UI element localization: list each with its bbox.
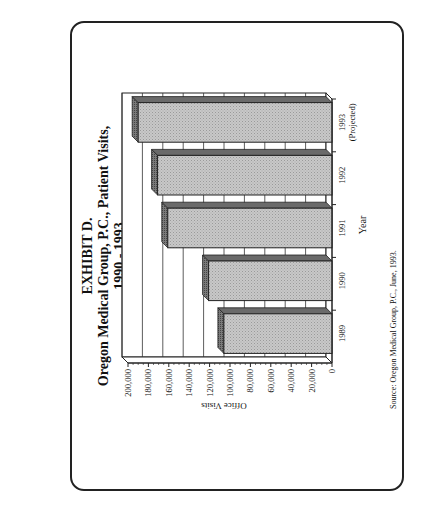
bar-1989	[224, 314, 332, 354]
bar-side-face	[218, 308, 332, 314]
bar-top-face	[218, 308, 224, 354]
side-wall	[122, 357, 332, 363]
bar-1991	[168, 208, 332, 248]
source-note: Source: Oregon Medical Group, P.C., June…	[389, 250, 398, 409]
y-axis-label: Office Visits	[201, 401, 247, 411]
bar-side-face	[152, 149, 332, 155]
y-tick-label: 20,000	[307, 369, 317, 392]
y-tick-label: 200,000	[123, 369, 133, 397]
x-tick-label: 1990	[337, 272, 347, 289]
bar-top-face	[162, 202, 168, 248]
bar-chart: 020,00040,00060,00080,000100,000120,0001…	[116, 43, 370, 413]
y-tick-label: 140,000	[184, 369, 194, 397]
x-tick-label: (Projected)	[347, 103, 357, 141]
x-tick-label: 1991	[337, 220, 347, 237]
bar-top-face	[203, 255, 209, 301]
y-tick-label: 0	[327, 369, 337, 373]
bar-top-face	[132, 97, 138, 143]
y-tick-label: 80,000	[245, 369, 255, 392]
bar-1992	[158, 155, 332, 195]
bar-side-face	[162, 202, 332, 208]
y-tick-label: 40,000	[286, 369, 296, 392]
bar-1990	[209, 261, 332, 301]
chart-title: Oregon Medical Group, P.C., Patient Visi…	[96, 23, 112, 489]
y-tick-label: 120,000	[205, 369, 215, 397]
y-tick-label: 60,000	[266, 369, 276, 392]
bar-side-face	[132, 97, 332, 103]
x-tick-label: 1992	[337, 167, 347, 184]
exhibit-label: EXHIBIT D.	[80, 23, 96, 489]
y-tick-label: 180,000	[143, 369, 153, 397]
y-tick-label: 100,000	[225, 369, 235, 397]
x-axis-label: Year	[357, 215, 368, 234]
chart-frame: EXHIBIT D. Oregon Medical Group, P.C., P…	[70, 21, 404, 491]
bar-top-face	[152, 149, 158, 195]
bar-1993	[138, 103, 332, 143]
x-tick-label: 1989	[337, 325, 347, 342]
bar-side-face	[203, 255, 332, 261]
x-tick-label: 1993	[337, 114, 347, 131]
y-tick-label: 160,000	[164, 369, 174, 397]
